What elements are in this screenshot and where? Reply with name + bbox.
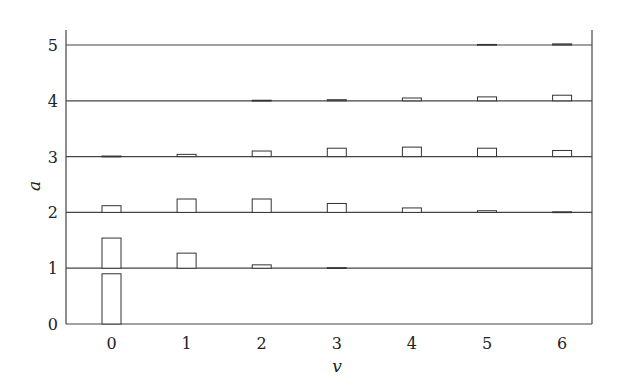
y-tick-1: 1 bbox=[48, 259, 58, 278]
bar-a4-v4 bbox=[402, 98, 421, 101]
x-tick-3: 3 bbox=[332, 334, 342, 353]
bar-a4-v5 bbox=[478, 97, 497, 101]
y-tick-2: 2 bbox=[48, 203, 58, 222]
bar-a4-v6 bbox=[553, 95, 572, 101]
bar-a1-v0 bbox=[102, 238, 121, 268]
bar-a5-v6 bbox=[553, 44, 572, 45]
bar-a1-v3 bbox=[327, 268, 346, 269]
x-tick-5: 5 bbox=[482, 334, 492, 353]
bar-a3-v0 bbox=[102, 156, 121, 157]
bar-a2-v0 bbox=[102, 206, 121, 213]
bar-a2-v4 bbox=[402, 208, 421, 212]
x-tick-labels: 0123456 bbox=[106, 334, 567, 353]
bar-a4-v2 bbox=[252, 100, 271, 101]
bar-a3-v5 bbox=[478, 148, 497, 156]
bar-a2-v6 bbox=[553, 212, 572, 213]
bar-a2-v5 bbox=[478, 211, 497, 213]
y-axis-label: a bbox=[24, 181, 44, 191]
histogram-chart: 012345 0123456 v a bbox=[0, 0, 622, 389]
plot-frame bbox=[66, 30, 592, 324]
bar-a3-v3 bbox=[327, 148, 346, 156]
x-tick-0: 0 bbox=[106, 334, 116, 353]
bar-a3-v2 bbox=[252, 151, 271, 157]
x-tick-2: 2 bbox=[257, 334, 267, 353]
y-tick-0: 0 bbox=[48, 315, 58, 334]
y-tick-4: 4 bbox=[48, 92, 58, 111]
bar-a5-v5 bbox=[478, 44, 497, 45]
x-tick-4: 4 bbox=[407, 334, 417, 353]
bar-a0-v0 bbox=[102, 274, 121, 324]
bar-a3-v4 bbox=[402, 147, 421, 156]
bar-a2-v2 bbox=[252, 199, 271, 212]
bar-a3-v1 bbox=[177, 154, 196, 156]
bar-a2-v1 bbox=[177, 199, 196, 212]
x-tick-6: 6 bbox=[557, 334, 567, 353]
bar-a4-v3 bbox=[327, 100, 346, 101]
y-tick-3: 3 bbox=[48, 148, 58, 167]
x-axis-label: v bbox=[332, 356, 342, 376]
bar-a2-v3 bbox=[327, 203, 346, 212]
bar-a1-v2 bbox=[252, 265, 271, 268]
x-tick-1: 1 bbox=[182, 334, 192, 353]
bars bbox=[102, 44, 572, 324]
row-baselines bbox=[66, 45, 592, 324]
bar-a3-v6 bbox=[553, 150, 572, 156]
bar-a1-v1 bbox=[177, 253, 196, 268]
y-tick-5: 5 bbox=[48, 36, 58, 55]
y-tick-labels: 012345 bbox=[48, 36, 58, 334]
